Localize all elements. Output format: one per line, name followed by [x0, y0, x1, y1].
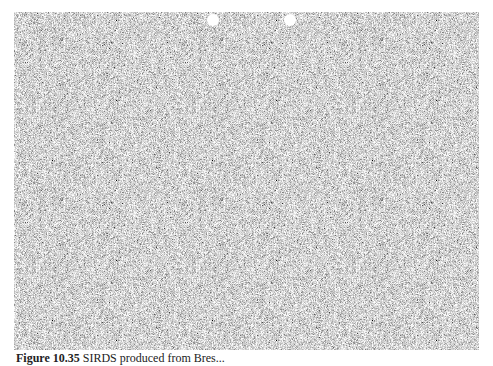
- right-guide-dot: [284, 14, 296, 26]
- figure-caption-text: SIRDS produced from Bres...: [83, 351, 225, 365]
- stereogram-figure: [14, 12, 479, 350]
- left-guide-dot: [207, 14, 219, 26]
- figure-label: Figure 10.35: [16, 351, 80, 365]
- random-dot-noise: [14, 12, 479, 350]
- figure-caption: Figure 10.35 SIRDS produced from Bres...: [16, 351, 225, 366]
